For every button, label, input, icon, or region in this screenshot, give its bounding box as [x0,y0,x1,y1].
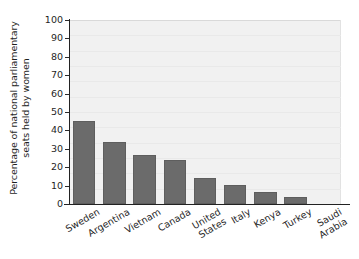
y-axis-tick-label: 70 [36,70,63,80]
plot-area [69,20,341,204]
y-axis-tick-label: 60 [36,89,63,99]
y-axis-tick-label: 0 [36,199,63,209]
y-axis-tick-label: 40 [36,125,63,135]
bar [284,197,306,204]
x-axis-tick-labels: SwedenArgentinaVietnamCanadaUnitedStates… [69,206,341,259]
bar-series [69,20,341,204]
y-axis-tick-label: 90 [36,33,63,43]
bar [194,178,216,204]
y-axis-tick-label: 10 [36,181,63,191]
bar [224,185,246,204]
y-axis-title: Percentage of national parliamentary sea… [0,0,40,215]
y-axis-tick-label: 20 [36,162,63,172]
bar [103,142,125,204]
y-axis-title-line-1: Percentage of national parliamentary [8,21,20,195]
y-axis-title-line-2: seats held by women [20,21,32,195]
bar [73,121,95,204]
bar [254,192,276,204]
y-axis-line [69,19,70,205]
bar-chart-figure: Percentage of national parliamentary sea… [0,0,359,259]
y-axis-tick-label: 30 [36,144,63,154]
y-axis-tick-label: 100 [36,15,63,25]
y-axis-tick-labels: 0102030405060708090100 [36,14,63,205]
bar [133,155,155,204]
y-axis-tick-label: 80 [36,52,63,62]
bar [164,160,186,204]
y-axis-tick-label: 50 [36,107,63,117]
